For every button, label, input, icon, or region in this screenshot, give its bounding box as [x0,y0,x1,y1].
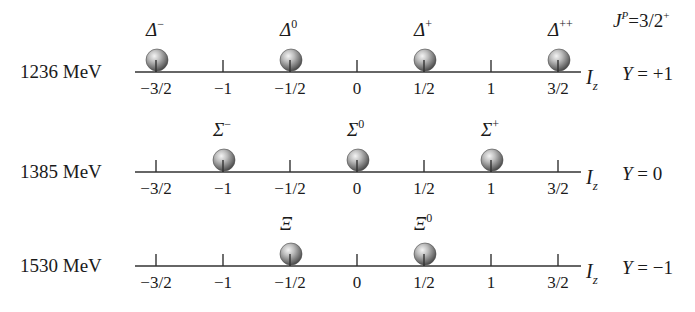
tick-label: −3/2 [140,179,171,198]
hypercharge-label: Y = +1 [622,63,673,84]
decuplet-diagram: JP=3/2+ 1236 MeV−3/2−1−1/201/213/2IzY = … [0,0,695,312]
mass-label: 1530 MeV [20,255,102,276]
hypercharge-label: Y = −1 [622,257,673,278]
multiplet-rows: 1236 MeV−3/2−1−1/201/213/2IzY = +1Δ−Δ0Δ+… [20,17,673,292]
tick-label: 3/2 [547,79,569,98]
tick-label: 0 [353,273,362,292]
particle-label: Δ+ [413,17,432,40]
particle-2: Σ+ [480,117,503,172]
mass-label: 1236 MeV [20,61,102,82]
particle-0: Ξ [280,213,302,266]
tick-label: 1/2 [413,273,435,292]
tick-label: 0 [353,179,362,198]
tick-label: −3/2 [140,79,171,98]
particle-label: Σ0 [346,117,364,140]
tick-label: 1 [487,273,496,292]
tick-label: 1/2 [413,179,435,198]
particle-1: Ξ0 [414,211,436,266]
axis-label-iz: Iz [585,66,598,93]
particle-sphere-icon [347,149,369,171]
particle-label: Σ+ [480,117,499,140]
particle-1: Δ0 [279,17,302,72]
tick-label: 3/2 [547,179,569,198]
particle-sphere-icon [280,243,302,265]
particle-sphere-icon [280,49,302,71]
spin-parity-label: JP=3/2+ [613,9,669,31]
tick-label: 3/2 [547,273,569,292]
particle-label: Ξ [280,213,293,234]
particle-2: Δ+ [413,17,436,72]
tick-label: 0 [353,79,362,98]
particle-label: Δ0 [279,17,297,40]
particle-1: Σ0 [346,117,369,172]
particle-sphere-icon [414,49,436,71]
particle-0: Σ− [212,117,235,172]
tick-label: −1/2 [274,179,305,198]
particle-label: Δ− [145,17,164,40]
particle-sphere-icon [548,49,570,71]
tick-label: −1 [214,179,232,198]
tick-label: 1 [487,79,496,98]
particle-0: Δ− [145,17,168,72]
multiplet-row: 1530 MeV−3/2−1−1/201/213/2IzY = −1ΞΞ0 [20,211,673,292]
tick-label: −1 [214,79,232,98]
multiplet-row: 1385 MeV−3/2−1−1/201/213/2IzY = 0Σ−Σ0Σ+ [20,117,662,198]
particle-label: Σ− [212,117,231,140]
particle-sphere-icon [414,243,436,265]
hypercharge-label: Y = 0 [622,163,662,184]
tick-label: 1 [487,179,496,198]
tick-label: −1 [214,273,232,292]
particle-sphere-icon [481,149,503,171]
axis-label-iz: Iz [585,166,598,193]
tick-label: 1/2 [413,79,435,98]
mass-label: 1385 MeV [20,161,102,182]
particle-sphere-icon [146,49,168,71]
multiplet-row: 1236 MeV−3/2−1−1/201/213/2IzY = +1Δ−Δ0Δ+… [20,17,673,98]
particle-3: Δ++ [547,17,573,72]
particle-sphere-icon [213,149,235,171]
particle-label: Δ++ [547,17,573,40]
tick-label: −1/2 [274,79,305,98]
tick-label: −3/2 [140,273,171,292]
axis-label-iz: Iz [585,260,598,287]
particle-label: Ξ0 [414,211,432,234]
tick-label: −1/2 [274,273,305,292]
